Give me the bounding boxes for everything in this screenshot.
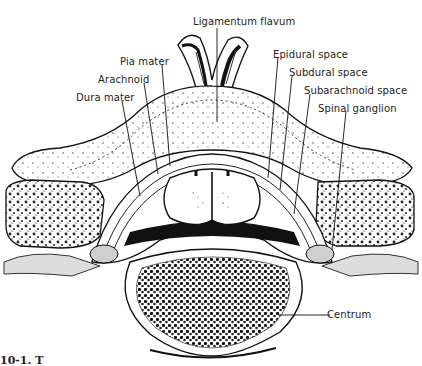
label-spinal-ganglion: Spinal ganglion [318,103,397,114]
label-ligamentum-flavum: Ligamentum flavum [193,16,295,27]
label-subarachnoid-space: Subarachnoid space [304,85,407,96]
label-subdural-space: Subdural space [289,67,368,78]
spinous-process [178,35,248,88]
label-epidural-space: Epidural space [273,49,348,60]
label-arachnoid: Arachnoid [98,74,149,85]
centrum [125,249,302,358]
label-centrum: Centrum [327,309,371,320]
label-pia-mater: Pia mater [120,56,169,67]
label-dura-mater: Dura mater [76,92,135,103]
spinal-cord-cross-section-figure: Ligamentum flavum Pia mater Arachnoid Du… [0,0,422,366]
spinal-cord [164,169,260,225]
figure-caption: 10-1. T [0,354,43,366]
